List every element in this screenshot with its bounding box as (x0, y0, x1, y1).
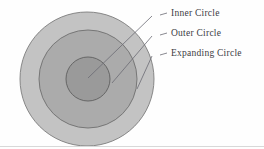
bottom-divider (0, 146, 264, 147)
figure-canvas: Inner Circle Outer Circle Expanding Circ… (0, 0, 264, 149)
concentric-circles-diagram (0, 0, 264, 149)
label-inner-circle: Inner Circle (171, 9, 220, 19)
leader-tick-outer-circle (160, 33, 167, 35)
label-outer-circle: Outer Circle (171, 29, 221, 39)
label-expanding-circle: Expanding Circle (171, 49, 242, 59)
leader-tick-inner-circle (160, 13, 167, 15)
leader-tick-expanding-circle (160, 53, 167, 55)
